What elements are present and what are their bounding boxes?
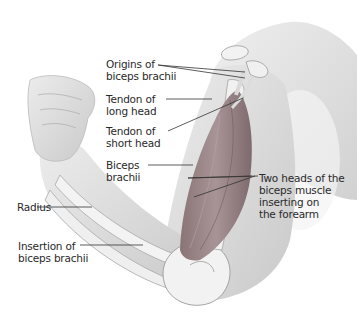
label-tendon-of-short-head: Tendon of short head [106,125,161,149]
label-tendon-of-long-head: Tendon of long head [106,93,156,117]
label-two-heads: Two heads of the biceps muscle inserting… [259,172,345,220]
fist [28,76,95,162]
label-radius: Radius [17,201,51,213]
biceps-anatomy-figure: Origins of biceps brachii Tendon of long… [0,0,357,319]
label-biceps-brachii: Biceps brachii [106,159,140,183]
arm-illustration [0,0,357,319]
label-origins-of-biceps-brachii: Origins of biceps brachii [106,58,176,82]
label-insertion-of-biceps-brachii: Insertion of biceps brachii [18,240,88,264]
